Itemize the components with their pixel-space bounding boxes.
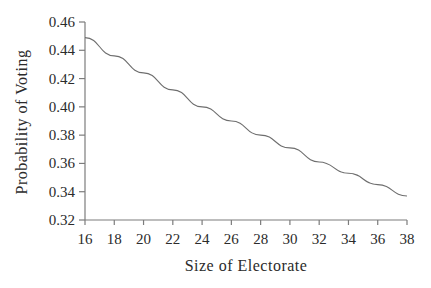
x-tick-label: 18 [107, 231, 122, 247]
x-axis-title: Size of Electorate [185, 257, 308, 275]
x-tick-label: 36 [370, 231, 386, 247]
y-tick-label: 0.42 [49, 71, 75, 87]
x-tick-label: 34 [341, 231, 357, 247]
x-tick-label: 20 [136, 231, 151, 247]
x-tick-label: 32 [312, 231, 327, 247]
y-tick-label: 0.36 [49, 155, 76, 171]
x-tick-label: 22 [165, 231, 180, 247]
y-tick-label: 0.34 [49, 184, 76, 200]
y-tick-label: 0.40 [49, 99, 75, 115]
probability-curve [85, 38, 407, 196]
y-tick-label: 0.32 [49, 212, 75, 228]
x-tick-label: 30 [282, 231, 297, 247]
voting-probability-chart: Probability of Voting 0.320.340.360.380.… [0, 0, 431, 288]
x-tick-label: 24 [195, 231, 211, 247]
plot-area: 0.320.340.360.380.400.420.440.4616182022… [0, 0, 431, 288]
x-tick-label: 26 [224, 231, 240, 247]
y-tick-label: 0.44 [49, 42, 76, 58]
x-tick-label: 28 [253, 231, 268, 247]
y-tick-label: 0.46 [49, 14, 76, 30]
x-tick-label: 16 [78, 231, 94, 247]
x-tick-label: 38 [400, 231, 415, 247]
y-tick-label: 0.38 [49, 127, 75, 143]
